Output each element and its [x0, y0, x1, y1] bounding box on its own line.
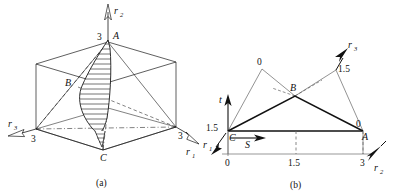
label-b-point-C: C [229, 132, 236, 143]
axis-label-r2-a-sub: 2 [120, 11, 124, 18]
scale-tick-1: 1.5 [288, 158, 300, 168]
hatched-lens-region [70, 40, 120, 147]
axis-label-r3-b-sub: 3 [353, 45, 358, 52]
axis-label-S-b: S [245, 139, 250, 150]
label-a-point-A: A [112, 30, 120, 41]
axis-label-r2-b-sub: 2 [380, 168, 384, 175]
axis-r2-a [105, 4, 112, 42]
technical-figure: 3 A B C 3 3 r 2 r 3 r 1 (a) [0, 0, 397, 196]
label-b-A-value: 0 [356, 119, 361, 129]
axis-r1-b [211, 133, 226, 155]
lens-tail [95, 131, 105, 147]
axis-label-r1-b: r 1 [203, 139, 212, 152]
construction-triangle-b [228, 69, 363, 131]
triangle-CBA [228, 96, 363, 131]
axis-label-r2-a-text: r [114, 5, 118, 16]
axis-label-r3-a-text: r [8, 118, 12, 129]
axis-label-r3-b: r 3 [348, 39, 358, 52]
label-b-C-value: 1.5 [206, 123, 218, 133]
cube-bottom-front [36, 127, 176, 150]
label-b-point-A: A [361, 131, 369, 142]
axis-label-t-b-text: t [219, 94, 222, 105]
axis-label-r1-b-sub: 1 [209, 145, 212, 152]
axis-label-r1-a: r 1 [186, 146, 195, 159]
axis-label-r1-b-text: r [203, 139, 207, 150]
figure-container: 3 A B C 3 3 r 2 r 3 r 1 (a) [0, 0, 397, 196]
axis-label-r3-a: r 3 [8, 118, 18, 131]
axis-r1-b-line [216, 133, 226, 147]
scale-tick-0: 0 [225, 158, 230, 168]
caption-panel-a: (a) [96, 178, 107, 189]
diag-bottom-1 [36, 127, 176, 129]
label-a-point-B: B [65, 77, 71, 88]
axis-label-r2-b: r 2 [374, 162, 384, 175]
axis-label-t-b: t [219, 94, 222, 105]
label-a-point-C: C [100, 152, 107, 163]
label-b-point-B: B [290, 82, 296, 93]
label-b-left-apex: 0 [257, 57, 262, 67]
axis-r2-b-line [381, 141, 386, 146]
line-A-to-right-vertex [108, 42, 176, 127]
label-a-tick-A: 3 [97, 32, 102, 42]
panel-a: 3 A B C 3 3 r 2 r 3 r 1 (a) [8, 4, 199, 189]
label-a-tick-r3: 3 [31, 134, 36, 144]
dashed-lines-b [272, 80, 322, 96]
axis-label-r2-a: r 2 [114, 5, 124, 18]
caption-panel-b: (b) [290, 180, 301, 191]
line-left-to-C [36, 129, 103, 150]
axis-label-S-b-text: S [245, 139, 250, 150]
label-b-right-apex: 1.5 [338, 64, 350, 74]
main-triangle-b [228, 96, 363, 131]
axis-label-r3-a-sub: 3 [13, 124, 18, 131]
label-a-tick-r1: 3 [178, 131, 183, 141]
axis-r1-arrowhead [186, 132, 199, 144]
axis-label-r2-b-text: r [374, 162, 378, 173]
axis-t-b [224, 94, 231, 156]
axis-r2-b-arrowhead [367, 146, 382, 161]
line-right-to-C [103, 127, 176, 150]
axis-r1-b-arrowhead [211, 143, 222, 155]
panel-b: 0 1.5 B 1.5 C 0 A t S r 1 r 2 r 3 0 1.5 … [203, 39, 386, 191]
axis-label-r3-b-text: r [348, 39, 352, 50]
axis-r2-b [367, 141, 387, 161]
axis-label-r1-a-text: r [186, 146, 190, 157]
scale-tick-2: 3 [360, 158, 365, 168]
axis-label-r1-a-sub: 1 [192, 152, 195, 159]
